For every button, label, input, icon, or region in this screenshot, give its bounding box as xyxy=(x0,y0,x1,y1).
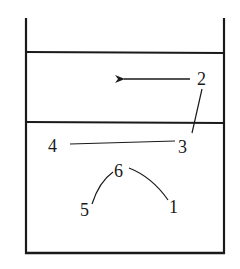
label-2: 2 xyxy=(197,69,206,89)
label-3: 3 xyxy=(178,137,187,157)
leader-line-2-3 xyxy=(192,89,202,133)
curve-6-1 xyxy=(129,168,168,200)
upper-boundary-line xyxy=(26,52,224,53)
container-diagram: 2 4 3 6 5 1 xyxy=(0,0,240,269)
curve-6-5 xyxy=(92,172,113,204)
label-1: 1 xyxy=(169,197,178,217)
label-4: 4 xyxy=(48,136,57,156)
label-6: 6 xyxy=(114,161,123,181)
label-5: 5 xyxy=(80,200,89,220)
line-4-3 xyxy=(70,141,175,144)
